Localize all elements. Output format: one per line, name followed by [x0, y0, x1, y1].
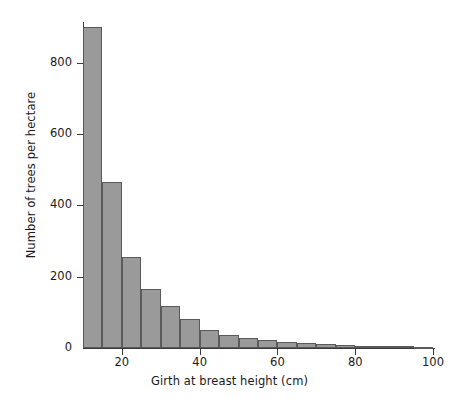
histogram-bar — [277, 342, 296, 348]
histogram-bar — [375, 346, 394, 348]
x-axis-title: Girth at breast height (cm) — [0, 374, 459, 388]
histogram-bar — [102, 182, 121, 348]
histogram-bar — [83, 27, 102, 348]
histogram-bar — [355, 346, 374, 348]
y-tick-mark — [77, 134, 83, 135]
histogram-bar — [394, 346, 413, 348]
histogram-bar — [161, 306, 180, 348]
x-axis-line — [83, 348, 435, 349]
histogram-bar — [180, 319, 199, 348]
histogram-figure: 0200400600800 20406080100 Girth at breas… — [0, 0, 459, 408]
histogram-bar — [297, 343, 316, 348]
y-tick-label: 0 — [32, 342, 72, 354]
histogram-bar — [258, 340, 277, 348]
histogram-bar — [414, 347, 433, 349]
histogram-bar — [219, 335, 238, 348]
y-tick-mark — [77, 63, 83, 64]
y-tick-label: 200 — [32, 271, 72, 283]
x-tick-label: 40 — [180, 357, 220, 369]
y-tick-mark — [77, 277, 83, 278]
y-tick-label: 800 — [32, 57, 72, 69]
histogram-bar — [122, 257, 141, 348]
y-tick-label: 400 — [32, 199, 72, 211]
histogram-bar — [200, 330, 219, 348]
y-tick-mark — [77, 205, 83, 206]
x-tick-label: 80 — [335, 357, 375, 369]
y-tick-label: 600 — [32, 128, 72, 140]
x-tick-label: 20 — [102, 357, 142, 369]
histogram-bar — [239, 338, 258, 348]
y-axis-title: Number of trees per hectare — [24, 60, 38, 290]
x-tick-label: 60 — [257, 357, 297, 369]
histogram-bar — [336, 345, 355, 348]
x-tick-label: 100 — [413, 357, 453, 369]
histogram-bar — [316, 344, 335, 348]
histogram-bar — [141, 289, 160, 348]
